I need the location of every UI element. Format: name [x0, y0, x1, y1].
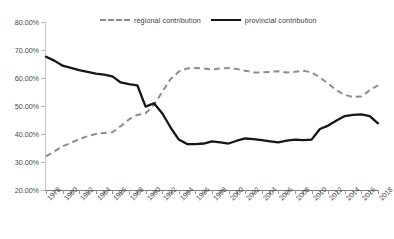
series-line-provincial	[46, 57, 378, 144]
series-line-regional	[46, 68, 378, 156]
